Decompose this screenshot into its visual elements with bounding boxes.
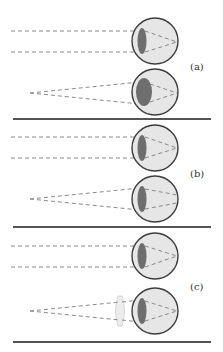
thin-lens [138, 186, 147, 212]
panel-label-a: (a) [190, 61, 204, 72]
panel-label-b: (b) [190, 168, 204, 179]
diverging-ray [30, 188, 140, 199]
diverging-ray [30, 311, 120, 320]
corrective-lens [116, 296, 125, 326]
diverging-ray [30, 93, 140, 104]
eye-distant-a [11, 18, 178, 64]
panel-label-c: (c) [190, 281, 204, 292]
thin-lens [138, 135, 147, 161]
thin-lens [138, 243, 147, 269]
eye-near-c [30, 288, 178, 334]
eye-distant-c [11, 233, 178, 279]
eye-near-a [30, 69, 178, 115]
thick-lens [136, 78, 152, 106]
eye-diagram: (a) (b) [0, 0, 223, 352]
panel-a: (a) [11, 18, 204, 115]
diverging-ray [30, 199, 140, 210]
diverging-ray [30, 302, 120, 311]
eye-distant-b [11, 125, 178, 171]
panel-c: (c) [11, 233, 204, 334]
thin-lens [138, 28, 147, 54]
thin-lens [138, 298, 147, 324]
diverging-ray [30, 82, 140, 93]
panel-b: (b) [11, 125, 204, 222]
eye-near-b [30, 176, 178, 222]
